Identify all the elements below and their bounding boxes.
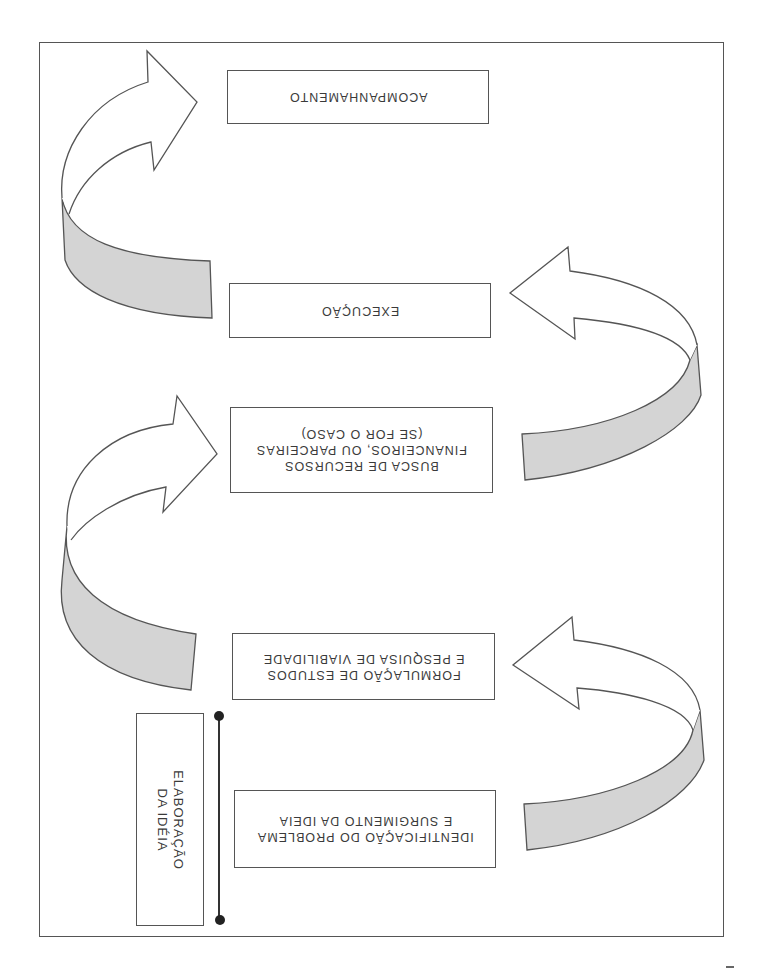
- curved-arrow-icon: [61, 396, 217, 690]
- curved-arrow-icon: [513, 617, 704, 850]
- phase-span-end-dot: [215, 915, 225, 925]
- curved-arrow-icon: [62, 51, 212, 318]
- step-label: FORMULAÇÃO DE ESTUDOS E PESQUISA DE VIAB…: [263, 651, 464, 683]
- step-label: BUSCA DE RECURSOS FINANCEIROS, OU PARCEI…: [256, 426, 467, 474]
- curved-arrow-icon: [510, 247, 701, 480]
- corner-mark: [726, 966, 734, 968]
- step-label: IDENTIFICAÇÃO DO PROBLEMA E SURGIMENTO D…: [257, 813, 474, 845]
- step-formulacao-estudos: FORMULAÇÃO DE ESTUDOS E PESQUISA DE VIAB…: [232, 633, 495, 700]
- step-label: EXECUÇÃO: [321, 303, 399, 319]
- step-label: ACOMPANHAMENTO: [289, 89, 428, 105]
- phase-elaboracao-ideia: ELABORAÇÃO DA IDÉIA: [136, 713, 204, 926]
- step-execucao: EXECUÇÃO: [229, 283, 491, 338]
- step-identificacao-problema: IDENTIFICAÇÃO DO PROBLEMA E SURGIMENTO D…: [234, 790, 496, 868]
- phase-label: ELABORAÇÃO DA IDÉIA: [154, 720, 186, 920]
- step-acompanhamento: ACOMPANHAMENTO: [227, 70, 489, 124]
- phase-span-start-dot: [214, 711, 224, 721]
- step-busca-recursos: BUSCA DE RECURSOS FINANCEIROS, OU PARCEI…: [230, 407, 493, 493]
- phase-span-bar: [218, 716, 220, 922]
